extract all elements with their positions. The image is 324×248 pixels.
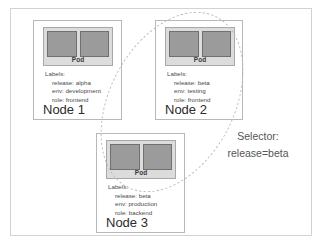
label-env-1: env: development <box>52 87 101 96</box>
pod-label-1: Pod <box>44 56 112 64</box>
pod-label-3: Pod <box>107 169 175 177</box>
label-release-2: release: beta <box>174 79 210 88</box>
container-icon-right-3 <box>143 144 173 170</box>
pod-label-2: Pod <box>166 56 234 64</box>
label-release-1: release: alpha <box>52 79 101 88</box>
labels-heading-3: Labels: <box>108 183 157 192</box>
container-icon-left-3 <box>110 144 140 170</box>
pod-containers-row-3 <box>110 144 172 170</box>
selector-heading: Selector: <box>207 128 309 145</box>
node-box-2: Pod Labels: release: beta env: testing r… <box>155 20 243 120</box>
labels-heading-2: Labels: <box>167 70 210 79</box>
pod-containers-row-1 <box>47 31 109 57</box>
labels-list-3: release: beta env: production role: back… <box>108 192 157 218</box>
label-release-3: release: beta <box>115 192 157 201</box>
pod-container-2: Pod <box>165 27 235 66</box>
labels-block-1: Labels: release: alpha env: development … <box>45 70 101 104</box>
labels-list-1: release: alpha env: development role: fr… <box>45 79 101 105</box>
diagram-canvas: Pod Labels: release: alpha env: developm… <box>0 0 324 248</box>
container-icon-right-1 <box>80 31 110 57</box>
container-icon-left-2 <box>169 31 199 57</box>
label-env-2: env: testing <box>174 87 210 96</box>
labels-block-3: Labels: release: beta env: production ro… <box>108 183 157 217</box>
selector-expression: release=beta <box>207 145 309 162</box>
label-env-3: env: production <box>115 200 157 209</box>
node-box-3: Pod Labels: release: beta env: productio… <box>96 133 185 233</box>
node-title-3: Node 3 <box>106 215 148 230</box>
pod-container-3: Pod <box>106 140 176 179</box>
selector-text-block: Selector: release=beta <box>207 128 309 162</box>
labels-block-2: Labels: release: beta env: testing role:… <box>167 70 210 104</box>
node-title-2: Node 2 <box>165 102 207 117</box>
labels-heading-1: Labels: <box>45 70 101 79</box>
pod-container-1: Pod <box>43 27 113 66</box>
node-title-1: Node 1 <box>43 102 85 117</box>
pod-containers-row-2 <box>169 31 231 57</box>
labels-list-2: release: beta env: testing role: fronten… <box>167 79 210 105</box>
container-icon-left-1 <box>47 31 77 57</box>
container-icon-right-2 <box>202 31 232 57</box>
node-box-1: Pod Labels: release: alpha env: developm… <box>33 20 122 120</box>
